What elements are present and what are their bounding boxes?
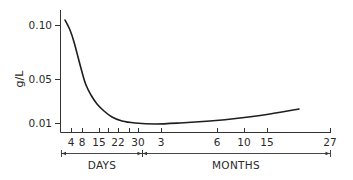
arrow-right-icon: [138, 152, 142, 156]
y-axis-label: g/L: [13, 70, 26, 88]
x-tick-label: 22: [111, 136, 124, 148]
x-tick-label: 10: [237, 136, 250, 148]
x-tick-label: 15: [260, 136, 273, 148]
arrow-left-icon: [62, 152, 66, 156]
x-ticks: 4815223036101527: [68, 128, 337, 148]
x-tick-label: 4: [68, 136, 75, 148]
x-axis-groups: DAYSMONTHS: [61, 150, 331, 171]
y-tick-label: 0.10: [29, 19, 52, 31]
x-tick-label: 30: [131, 136, 144, 148]
y-ticks: 0.100.050.01: [29, 19, 61, 129]
arrow-right-icon: [326, 152, 330, 156]
arrow-left-icon: [143, 152, 147, 156]
x-tick-label: 6: [214, 136, 221, 148]
group-label: DAYS: [88, 159, 117, 171]
data-line: [65, 20, 299, 124]
line-chart: 0.100.050.01 4815223036101527 g/L DAYSMO…: [0, 0, 353, 180]
y-tick-label: 0.05: [29, 73, 52, 85]
x-tick-label: 27: [323, 136, 336, 148]
x-tick-label: 15: [92, 136, 105, 148]
y-tick-label: 0.01: [29, 117, 52, 129]
x-tick-label: 3: [158, 136, 165, 148]
x-tick-label: 8: [79, 136, 86, 148]
group-label: MONTHS: [212, 159, 260, 171]
